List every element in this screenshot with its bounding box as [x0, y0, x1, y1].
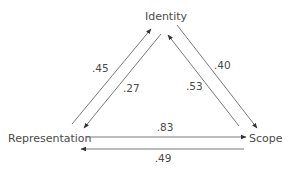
weight-representation-to-scope: .83 — [157, 121, 174, 133]
weight-scope-to-identity: .53 — [186, 80, 203, 92]
edge-identity-to-representation — [84, 34, 161, 128]
weight-scope-to-representation: .49 — [155, 152, 172, 164]
weight-representation-to-identity: .45 — [92, 62, 109, 74]
node-representation: Representation — [8, 132, 92, 145]
weight-identity-to-scope: .40 — [214, 59, 231, 71]
node-identity: Identity — [145, 10, 188, 23]
edge-identity-to-scope — [177, 25, 257, 128]
node-scope: Scope — [249, 132, 283, 145]
weight-identity-to-representation: .27 — [123, 82, 140, 94]
edge-scope-to-identity — [168, 35, 239, 126]
path-diagram: Identity Representation Scope .45 .27 .5… — [0, 0, 289, 170]
edge-representation-to-identity — [72, 29, 151, 124]
